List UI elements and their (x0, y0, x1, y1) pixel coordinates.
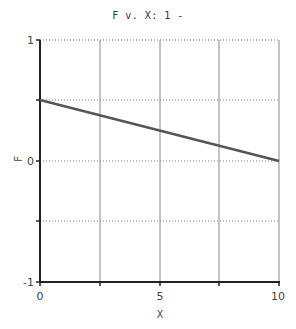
y-tick-1: 1 (27, 34, 34, 47)
y-axis-label: F (13, 156, 24, 162)
v-gridlines (100, 40, 279, 282)
x-tick-0: 0 (37, 290, 44, 303)
y-tick-0: 0 (27, 155, 34, 168)
x-tick-10: 10 (271, 290, 285, 303)
x-axis-label: X (157, 309, 163, 320)
axis-ticks (36, 40, 279, 286)
y-tick-minus1: -1 (23, 276, 34, 289)
x-tick-5: 5 (157, 290, 164, 303)
chart-plot: 1 0 -1 0 5 10 X F (0, 0, 296, 329)
